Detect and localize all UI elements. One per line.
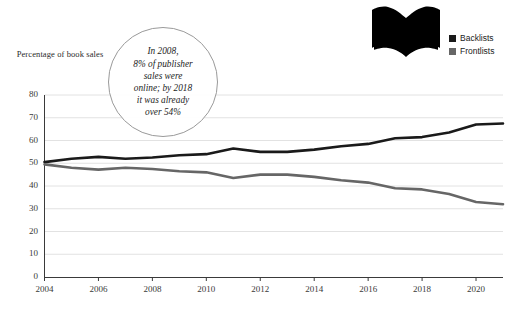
- y-tick-label: 0: [16, 271, 38, 281]
- legend-label: Frontlists: [460, 46, 494, 56]
- x-tick-label: 2008: [132, 284, 172, 294]
- x-tick-label: 2014: [294, 284, 334, 294]
- x-tick-label: 2020: [456, 284, 496, 294]
- data-series-layer: [45, 123, 504, 204]
- y-tick-label: 80: [16, 89, 38, 99]
- x-tick-label: 2004: [25, 284, 65, 294]
- y-axis-title: Percentage of book sales: [14, 49, 106, 60]
- open-book-icon: [368, 4, 444, 62]
- series-line-frontlists: [45, 164, 504, 204]
- chart-legend: BacklistsFrontlists: [449, 33, 494, 59]
- legend-label: Backlists: [460, 33, 494, 43]
- y-tick-label: 30: [16, 203, 38, 213]
- legend-item-frontlists[interactable]: Frontlists: [449, 46, 494, 56]
- y-tick-label: 20: [16, 226, 38, 236]
- legend-swatch-icon: [449, 35, 456, 42]
- y-tick-label: 60: [16, 135, 38, 145]
- y-tick-label: 70: [16, 112, 38, 122]
- x-tick-label: 2018: [402, 284, 442, 294]
- series-line-backlists: [45, 123, 504, 162]
- y-tick-label: 50: [16, 157, 38, 167]
- legend-swatch-icon: [449, 48, 456, 55]
- callout-annotation: In 2008, 8% of publisher sales were onli…: [108, 27, 218, 137]
- callout-text: In 2008, 8% of publisher sales were onli…: [112, 45, 214, 118]
- x-tick-label: 2010: [186, 284, 226, 294]
- x-tick-label: 2012: [240, 284, 280, 294]
- x-tick-label: 2006: [78, 284, 118, 294]
- x-tick-label: 2016: [348, 284, 388, 294]
- line-chart: Percentage of book sales 807060504030201…: [0, 0, 515, 312]
- y-tick-label: 10: [16, 248, 38, 258]
- y-tick-label: 40: [16, 180, 38, 190]
- legend-item-backlists[interactable]: Backlists: [449, 33, 494, 43]
